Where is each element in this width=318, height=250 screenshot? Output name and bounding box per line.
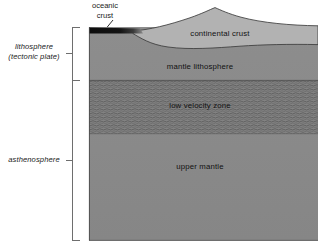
mantle-lithosphere-label: mantle lithosphere (140, 62, 260, 71)
upper-mantle-label: upper mantle (140, 162, 260, 171)
lithosphere-bracket (66, 28, 80, 81)
continental-crust-label: continental crust (160, 29, 280, 38)
asthenosphere-bracket (66, 81, 80, 241)
diagram-canvas: lithosphere (tectonic plate) asthenosphe… (0, 0, 318, 250)
low-velocity-zone-label: low velocity zone (140, 101, 260, 110)
